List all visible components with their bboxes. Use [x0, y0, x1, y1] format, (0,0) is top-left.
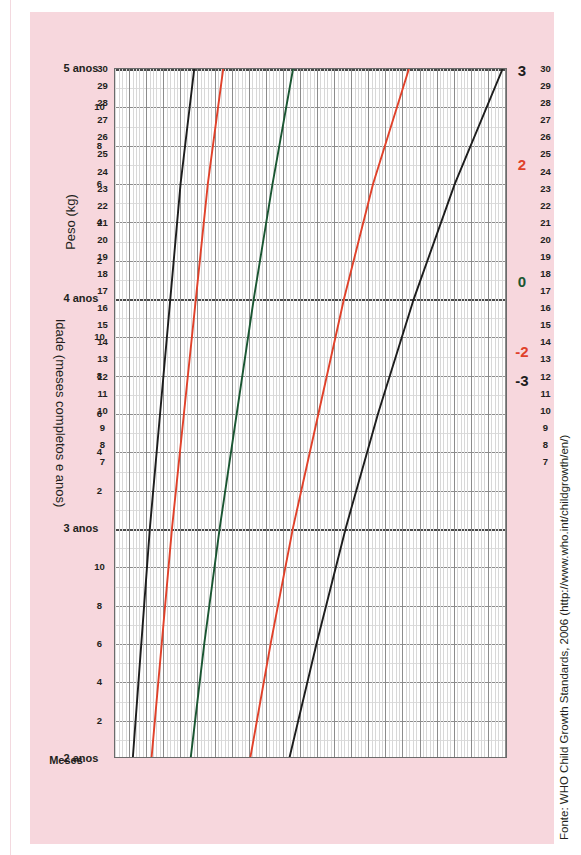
weight-tick-label: 8	[543, 435, 548, 452]
percentile-curves	[114, 69, 506, 757]
y-axis-title: Peso (kg)	[63, 194, 78, 250]
weight-axis-top: 3029282726252423222120191817161514131211…	[537, 68, 554, 758]
x-axis-title: Idade (meses completos e anos)	[53, 319, 68, 508]
weight-tick-label: 27	[540, 111, 551, 128]
age-tick-month: 4	[97, 446, 102, 457]
age-tick-month: 6	[97, 408, 102, 419]
chart-page: 3029282726252423222120191817161514131211…	[0, 0, 581, 855]
weight-tick-label: 13	[97, 350, 108, 367]
weight-tick-label: 14	[540, 333, 551, 350]
zscore-labels: 320-2-3	[507, 68, 537, 758]
weight-tick-label: 24	[97, 162, 108, 179]
weight-tick-label: 19	[540, 247, 551, 264]
weight-tick-label: 18	[540, 265, 551, 282]
age-tick-month: 2	[97, 714, 102, 725]
age-tick-year: 4 anos	[64, 292, 99, 304]
weight-tick-label: 7	[543, 453, 548, 470]
age-tick-year: 5 anos	[64, 62, 99, 74]
age-tick-month: 6	[97, 638, 102, 649]
page-edge-line	[10, 0, 11, 855]
age-tick-month: 4	[97, 676, 102, 687]
age-tick-month: 10	[94, 331, 105, 342]
weight-tick-label: 20	[97, 230, 108, 247]
age-tick-month: 10	[94, 561, 105, 572]
weight-tick-label: 16	[540, 299, 551, 316]
age-tick-month: 8	[97, 599, 102, 610]
weight-tick-label: 27	[97, 111, 108, 128]
weight-tick-label: 20	[540, 230, 551, 247]
weight-tick-label: 25	[540, 145, 551, 162]
weight-tick-label: 30	[97, 60, 108, 77]
growth-chart-stage: 3029282726252423222120191817161514131211…	[30, 12, 554, 844]
weight-tick-label: 21	[540, 213, 551, 230]
months-axis-label: Meses	[49, 754, 83, 766]
weight-tick-label: 24	[540, 162, 551, 179]
zscore-label-0: 0	[518, 267, 526, 297]
curve-z0	[191, 69, 293, 757]
age-tick-month: 2	[97, 484, 102, 495]
weight-tick-label: 17	[97, 282, 108, 299]
weight-tick-label: 22	[97, 196, 108, 213]
plot-area	[114, 68, 507, 758]
age-tick-month: 6	[97, 178, 102, 189]
weight-tick-label: 10	[540, 401, 551, 418]
weight-tick-label: 18	[97, 265, 108, 282]
age-tick-month: 8	[97, 139, 102, 150]
age-tick-month: 2	[97, 254, 102, 265]
plot-area-wrapper	[114, 68, 507, 758]
curve-z3	[290, 69, 503, 757]
zscore-label--2: -2	[515, 337, 528, 367]
zscore-label--3: -3	[515, 366, 528, 396]
zscore-label-3: 3	[518, 56, 526, 86]
weight-tick-label: 12	[540, 367, 551, 384]
age-tick-month: 8	[97, 369, 102, 380]
source-note: Fonte: WHO Child Growth Standards, 2006 …	[558, 435, 570, 840]
age-tick-year: 3 anos	[64, 522, 99, 534]
age-tick-month: 4	[97, 216, 102, 227]
zscore-label-2: 2	[518, 150, 526, 180]
weight-tick-label: 28	[540, 94, 551, 111]
weight-tick-label: 29	[540, 77, 551, 94]
weight-tick-label: 15	[540, 316, 551, 333]
age-axis: 2 anos2468103 anos2468104 anos2468105 an…	[112, 68, 113, 758]
weight-tick-label: 23	[540, 179, 551, 196]
curve-z-2	[152, 69, 224, 757]
weight-tick-label: 22	[540, 196, 551, 213]
weight-tick-label: 9	[100, 418, 105, 435]
curve-z-3	[133, 69, 194, 757]
weight-tick-label: 16	[97, 299, 108, 316]
weight-tick-label: 29	[97, 77, 108, 94]
weight-tick-label: 9	[543, 418, 548, 435]
weight-tick-label: 17	[540, 282, 551, 299]
weight-tick-label: 11	[540, 384, 550, 401]
weight-tick-label: 30	[540, 60, 551, 77]
weight-tick-label: 11	[97, 384, 107, 401]
weight-tick-label: 26	[540, 128, 551, 145]
weight-tick-label: 13	[540, 350, 551, 367]
age-tick-month: 10	[94, 101, 105, 112]
